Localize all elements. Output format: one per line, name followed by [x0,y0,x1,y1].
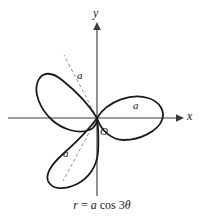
x-axis-label: x [187,110,192,122]
figure-caption: r = a cos 3θ [0,198,204,213]
polar-plot-canvas [0,0,204,223]
rose-petal-upper-left [36,74,97,132]
radius-label-upper-left: a [77,70,83,81]
y-axis-label: y [93,7,98,19]
caption-equals: = [78,198,91,212]
y-axis-arrowhead [93,22,101,30]
radius-label-lower-left: a [63,148,69,159]
radius-label-right: a [133,100,139,111]
origin-label: O [100,126,108,137]
caption-cos: cos [97,198,119,212]
x-axis-arrowhead [176,114,184,122]
polar-rose-figure: y x O a a a r = a cos 3θ [0,0,204,223]
caption-theta: θ [125,198,131,212]
y-axis [93,22,101,196]
